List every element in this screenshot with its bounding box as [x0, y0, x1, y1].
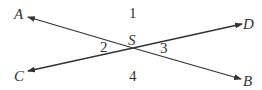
point-label-b: B: [243, 73, 252, 89]
ray-sb: [133, 48, 241, 79]
point-label-c: C: [14, 68, 25, 84]
angle-label-4: 4: [129, 68, 137, 84]
ray-sd: [133, 24, 242, 48]
ray-sc: [28, 48, 133, 71]
angle-label-3: 3: [160, 40, 168, 56]
intersecting-lines-diagram: A B C D S 1 2 3 4: [0, 0, 262, 90]
angle-label-1: 1: [129, 5, 137, 21]
diagram-canvas: A B C D S 1 2 3 4: [0, 0, 262, 90]
intersection-label-s: S: [128, 32, 136, 48]
angle-label-2: 2: [100, 39, 108, 55]
point-label-a: A: [13, 6, 24, 22]
point-label-d: D: [242, 16, 254, 32]
ray-sa: [28, 17, 133, 48]
